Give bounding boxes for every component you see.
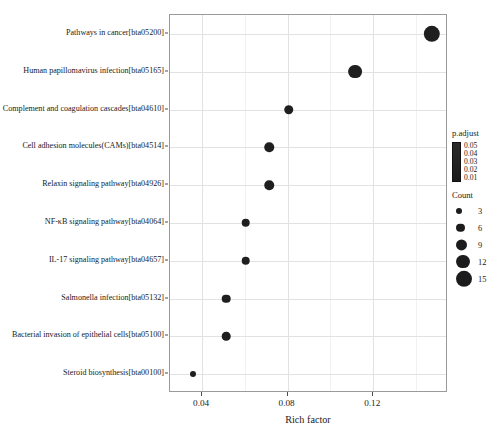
data-point bbox=[265, 143, 275, 153]
gridline-horizontal bbox=[170, 299, 446, 300]
x-axis-tick-label: 0.12 bbox=[364, 398, 380, 408]
legend-padjust-scale: 0.050.040.030.020.01 bbox=[452, 140, 493, 186]
gridline-horizontal bbox=[170, 185, 446, 186]
legend-count-row: 6 bbox=[452, 219, 493, 236]
y-axis-tick-mark bbox=[165, 108, 168, 109]
data-point bbox=[348, 65, 362, 79]
y-axis-tick-mark bbox=[165, 184, 168, 185]
legend-count-label: 15 bbox=[478, 274, 486, 283]
legend-count-dot bbox=[456, 255, 470, 269]
y-axis-tick-mark bbox=[165, 32, 168, 33]
data-point bbox=[190, 371, 196, 377]
y-axis-tick-mark bbox=[165, 297, 168, 298]
y-axis-tick-label: Steroid biosynthesis[bta00100] bbox=[63, 368, 164, 378]
legend-count-dot bbox=[456, 270, 472, 286]
y-axis-tick-mark bbox=[165, 221, 168, 222]
bubble-plot-figure: Pathways in cancer[bta05200]Human papill… bbox=[0, 0, 493, 438]
legend-padjust-title: p.adjust bbox=[452, 128, 493, 138]
gridline-horizontal bbox=[170, 34, 446, 35]
y-axis: Pathways in cancer[bta05200]Human papill… bbox=[0, 14, 164, 392]
y-axis-tick-mark bbox=[165, 259, 168, 260]
y-axis-tick-mark bbox=[165, 373, 168, 374]
plot-panel bbox=[169, 14, 447, 392]
y-axis-tick-mark bbox=[165, 146, 168, 147]
y-axis-tick-mark bbox=[165, 70, 168, 71]
legend-count-title: Count bbox=[452, 190, 493, 200]
legend-count-label: 12 bbox=[478, 257, 486, 266]
legend-count-row: 9 bbox=[452, 236, 493, 253]
data-point bbox=[222, 332, 231, 341]
gridline-horizontal bbox=[170, 72, 446, 73]
gridline-horizontal bbox=[170, 223, 446, 224]
gridline-horizontal bbox=[170, 110, 446, 111]
y-axis-tick-label: Pathways in cancer[bta05200] bbox=[66, 28, 164, 38]
padjust-tick-label: 0.01 bbox=[464, 174, 477, 182]
data-point bbox=[222, 294, 231, 303]
data-point bbox=[424, 26, 440, 42]
y-axis-tick-label: Human papillomavirus infection[bta05165] bbox=[23, 66, 164, 76]
gridline-horizontal bbox=[170, 336, 446, 337]
x-axis-tick-mark bbox=[372, 392, 373, 396]
data-point bbox=[265, 180, 275, 190]
legend-count-rows: 3691215 bbox=[452, 202, 493, 287]
gridline-horizontal bbox=[170, 374, 446, 375]
legend-count-label: 6 bbox=[478, 223, 482, 232]
x-axis-tick-label: 0.08 bbox=[279, 398, 295, 408]
x-axis-tick-label: 0.04 bbox=[193, 398, 209, 408]
x-axis-title: Rich factor bbox=[169, 414, 447, 425]
legend-count-label: 3 bbox=[478, 206, 482, 215]
y-axis-tick-label: Bacterial invasion of epithelial cells[b… bbox=[12, 330, 164, 340]
legend-count-dot bbox=[456, 223, 465, 232]
legend-count-row: 15 bbox=[452, 270, 493, 287]
y-axis-tick-label: IL-17 signaling pathway[bta04657] bbox=[49, 255, 164, 265]
y-axis-tick-mark bbox=[165, 335, 168, 336]
legend-count-dot bbox=[456, 239, 467, 250]
gridline-horizontal bbox=[170, 147, 446, 148]
y-axis-tick-label: Complement and coagulation cascades[bta0… bbox=[3, 104, 164, 114]
legend-padjust: p.adjust 0.050.040.030.020.01 bbox=[452, 128, 493, 186]
data-point bbox=[284, 105, 294, 115]
x-axis-tick-mark bbox=[287, 392, 288, 396]
y-axis-tick-label: Relaxin signaling pathway[bta04926] bbox=[42, 179, 164, 189]
gridline-horizontal bbox=[170, 261, 446, 262]
y-axis-tick-label: Salmonella infection[bta05132] bbox=[61, 293, 164, 303]
legend-count: Count 3691215 bbox=[452, 190, 493, 287]
legend-count-dot bbox=[456, 208, 462, 214]
legend-count-row: 12 bbox=[452, 253, 493, 270]
y-axis-tick-label: Cell adhesion molecules(CAMs)[bta04514] bbox=[22, 141, 164, 151]
data-point bbox=[242, 219, 251, 228]
padjust-gradient-bar bbox=[452, 142, 461, 182]
data-point bbox=[242, 256, 251, 265]
legend-count-row: 3 bbox=[452, 202, 493, 219]
y-axis-tick-label: NF-κB signaling pathway[bta04064] bbox=[45, 217, 164, 227]
legend-container: p.adjust 0.050.040.030.020.01 Count 3691… bbox=[452, 128, 493, 186]
x-axis-tick-mark bbox=[201, 392, 202, 396]
legend-count-label: 9 bbox=[478, 240, 482, 249]
